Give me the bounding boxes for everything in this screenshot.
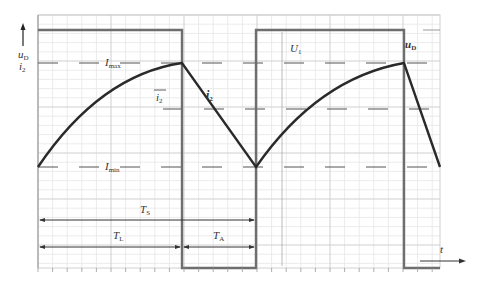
- mean-current-label: i2: [156, 91, 163, 105]
- current-waveform: [38, 63, 440, 167]
- voltage-square-wave: [38, 30, 440, 268]
- ts-interval-arrow: [39, 218, 255, 222]
- waveform-diagram: uD i2 U1 Imax Imin i2 i2 uD TS TL: [0, 0, 495, 289]
- current-label: i2: [206, 88, 213, 103]
- ts-label: TS: [140, 203, 150, 217]
- u1-label: U1: [290, 42, 302, 56]
- tl-label: TL: [113, 229, 123, 243]
- time-axis-arrow-icon: [420, 259, 466, 264]
- tl-interval-arrow: [39, 245, 181, 249]
- y-axis-arrow-icon: [21, 23, 26, 46]
- voltage-label: uD: [405, 38, 416, 52]
- ta-interval-arrow: [183, 245, 255, 249]
- time-axis-label: t: [440, 243, 444, 255]
- imax-label: Imax: [104, 56, 121, 70]
- y-axis-label-i: i2: [19, 60, 26, 74]
- ta-label: TA: [213, 229, 224, 243]
